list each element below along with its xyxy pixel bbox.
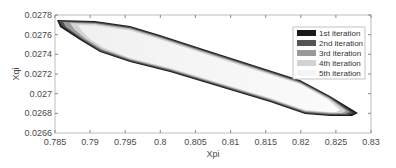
y-tick-label: 0.0278 [24, 10, 52, 20]
legend-label: 5th iteration [319, 69, 361, 78]
x-tick-label: 0.81 [222, 137, 240, 147]
legend-label: 1st iteration [319, 29, 360, 38]
legend-swatch [297, 30, 316, 36]
x-tick-label: 0.82 [292, 137, 310, 147]
legend-label: 2nd iteration [319, 39, 363, 48]
x-tick-label: 0.805 [184, 137, 207, 147]
legend-label: 4th iteration [319, 59, 361, 68]
y-tick-label: 0.0274 [24, 49, 52, 59]
y-tick-label: 0.027 [29, 89, 52, 99]
legend-label: 3rd iteration [319, 49, 361, 58]
y-tick-label: 0.0272 [24, 69, 52, 79]
x-tick-label: 0.795 [114, 137, 137, 147]
legend: 1st iteration 2nd iteration 3rd iteratio… [293, 27, 365, 79]
x-tick-label: 0.79 [81, 137, 99, 147]
x-tick-label: 0.815 [254, 137, 277, 147]
x-tick-label: 0.8 [154, 137, 167, 147]
x-axis-label: Xpi [206, 149, 219, 159]
x-tick-label: 0.785 [44, 137, 67, 147]
x-tick-label: 0.83 [362, 137, 380, 147]
y-tick-label: 0.0276 [24, 30, 52, 40]
x-tick-label: 0.825 [325, 137, 348, 147]
legend-swatch [297, 60, 316, 66]
y-axis-label: Xqi [11, 67, 21, 80]
legend-swatch [297, 70, 316, 76]
legend-swatch [297, 40, 316, 46]
y-tick-label: 0.0268 [24, 108, 52, 118]
chart: 0.0278 0.0276 0.0274 0.0272 0.027 0.0268… [0, 0, 396, 168]
legend-swatch [297, 50, 316, 56]
